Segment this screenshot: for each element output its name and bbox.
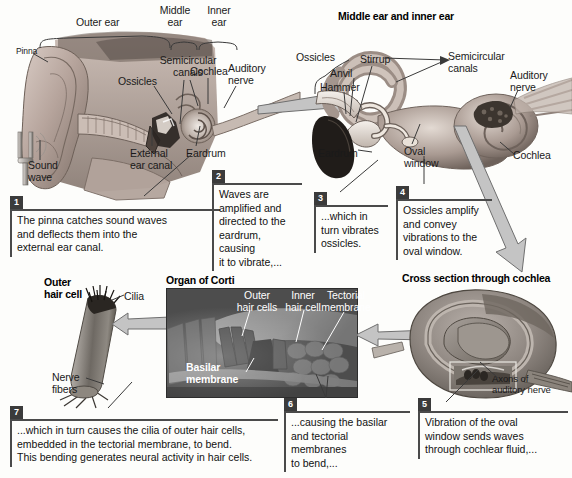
step-6-leader [286,374,330,402]
organ-of-corti-title: Organ of Corti [166,274,234,286]
label-inner-ear: Inner ear [199,5,239,28]
basilar-membrane-leader [212,356,258,376]
step-2-number: 2 [212,170,225,183]
step-7-leader [100,382,140,410]
step-3-text: ...which in turn vibrates ossicles. [314,207,388,253]
mi-auditory-nerve-leader [508,90,534,114]
cilia-leader [110,292,128,304]
step-3: 3 ...which in turn vibrates ossicles. [314,192,388,253]
label-outer-ear: Outer ear [76,17,119,29]
ossicles-leader [150,86,180,122]
step-5-leader [440,370,486,410]
step-3-leader [334,160,384,196]
step-1-text: The pinna catches sound waves and deflec… [10,211,220,257]
step-5-number: 5 [418,398,431,411]
step-6-text: ...causing the basilar and tectorial mem… [284,413,410,472]
auditory-nerve-leader [224,86,248,116]
step-7-number: 7 [10,406,23,419]
step-4-text: Ossicles amplify and convey vibrations t… [396,201,492,260]
figure-canvas: Outer ear Middle ear Inner ear Pinna Sou… [0,0,572,478]
mi-semicircular-leaders [378,54,452,88]
step-3-number: 3 [314,192,327,205]
pinna-leader [34,52,54,66]
step-5-text: Vibration of the oval window sends waves… [418,413,568,459]
external-ear-canal-leader [140,128,160,150]
flow-arrow-corti-to-haircell [110,313,172,337]
step-2-text: Waves are amplified and directed to the … [212,185,302,271]
step-7: 7 ...which in turn causes the cilia of o… [10,406,278,467]
inner-ear-bracket [198,40,258,52]
sound-wave-leader [24,140,44,164]
step-4-number: 4 [396,186,409,199]
step-6: 6 ...causing the basilar and tectorial m… [284,398,410,472]
corti-label-leaders [228,310,358,352]
label-mi-eardrum: Eardrum [318,148,358,160]
eardrum-leader [182,126,206,150]
step-1-number: 1 [10,196,23,209]
label-mi-semicircular-canals: Semicircular canals [448,51,505,74]
label-cochlea: Cochlea [190,66,228,78]
mi-oval-window-leader [406,124,430,148]
step-4-leader [414,156,434,188]
label-nerve-fibers: Nerve fibers [52,372,80,395]
label-middle-ear: Middle ear [153,5,197,28]
label-auditory-nerve: Auditory nerve [228,63,266,86]
step-1-leader [140,154,200,200]
step-4: 4 Ossicles amplify and convey vibrations… [396,186,492,260]
step-7-text: ...which in turn causes the cilia of out… [10,421,278,467]
cochlea-leader [204,78,224,110]
step-2: 2 Waves are amplified and directed to th… [212,170,302,271]
step-1: 1 The pinna catches sound waves and defl… [10,196,220,257]
mi-eardrum-leader [356,130,378,154]
middle-inner-ear-title: Middle ear and inner ear [338,10,454,22]
cross-section-title: Cross section through cochlea [402,272,550,284]
